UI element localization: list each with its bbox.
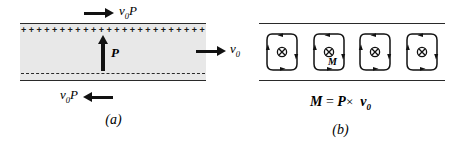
plus-sign: + <box>169 26 174 35</box>
top-flux-label: v0P <box>119 4 137 23</box>
top-surface-current-label-group: v0P <box>84 4 137 23</box>
current-loop-array <box>263 29 441 75</box>
formula-rhs-first: P <box>337 94 346 109</box>
plus-sign: + <box>99 26 104 35</box>
current-loop <box>403 30 441 74</box>
plus-sign: + <box>200 26 205 35</box>
bottom-surface-current-label-group: v0P <box>60 88 113 107</box>
arrow-right-icon <box>84 8 114 18</box>
positive-bound-charge-row: ++++++++++++++++++++++++ <box>21 26 205 35</box>
magnetization-formula: M = P× v0 <box>227 94 454 112</box>
slab-bottom-border <box>20 80 206 81</box>
panel-a-caption: (a) <box>0 112 227 128</box>
plus-sign: + <box>68 26 73 35</box>
plus-sign: + <box>130 26 135 35</box>
formula-lhs: M <box>310 94 322 109</box>
current-loop <box>356 30 394 74</box>
formula-equals: = <box>326 94 334 109</box>
plus-sign: + <box>192 26 197 35</box>
bottom-flux-label: v0P <box>60 88 78 107</box>
formula-rhs-second-sub: 0 <box>366 102 371 112</box>
plus-sign: + <box>122 26 127 35</box>
plus-sign: + <box>145 26 150 35</box>
panel-b-caption: (b) <box>227 122 454 138</box>
plus-sign: + <box>21 26 26 35</box>
polarization-label: P <box>111 45 119 61</box>
plus-sign: + <box>184 26 189 35</box>
plus-sign: + <box>52 26 57 35</box>
panel-b-magnetized-slab: M M = P× v0 (b) <box>227 0 454 144</box>
panel-a-polarized-slab: v0P ++++++++++++++++++++++++ P v0P v0 (a… <box>0 0 227 144</box>
arrow-left-icon <box>83 92 113 102</box>
plus-sign: + <box>161 26 166 35</box>
negative-bound-charge-row <box>21 73 205 74</box>
current-loop <box>263 30 301 74</box>
plus-sign: + <box>176 26 181 35</box>
magnetization-label: M <box>328 56 337 67</box>
physics-figure: v0P ++++++++++++++++++++++++ P v0P v0 (a… <box>0 0 454 144</box>
plus-sign: + <box>75 26 80 35</box>
plus-sign: + <box>44 26 49 35</box>
plus-sign: + <box>153 26 158 35</box>
arrow-right-icon <box>196 46 226 56</box>
plus-sign: + <box>137 26 142 35</box>
plus-sign: + <box>37 26 42 35</box>
magnet-slab-top-border <box>259 23 445 24</box>
plus-sign: + <box>91 26 96 35</box>
plus-sign: + <box>29 26 34 35</box>
magnet-slab-bottom-border <box>259 80 445 81</box>
plus-sign: + <box>106 26 111 35</box>
plus-sign: + <box>83 26 88 35</box>
plus-sign: + <box>114 26 119 35</box>
plus-sign: + <box>60 26 65 35</box>
current-loop <box>310 30 348 74</box>
